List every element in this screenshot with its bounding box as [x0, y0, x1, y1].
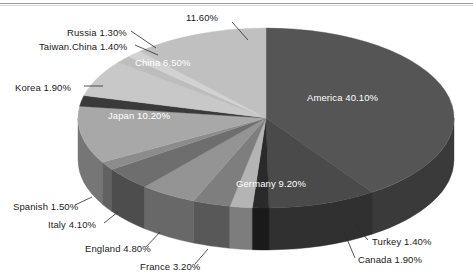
- callout-canada: Canada 1.90%: [358, 254, 422, 265]
- leader-line-1: [131, 31, 156, 48]
- callout-russia: Russia 1.30%: [67, 27, 127, 38]
- callout-turkey: Turkey 1.40%: [372, 236, 431, 247]
- inner-label-america: America 40.10%: [307, 92, 378, 103]
- inner-label-china: China 6.50%: [135, 57, 191, 68]
- pie-chart-figure: 11.60% Russia 1.30% Taiwan.China 1.40% K…: [0, 0, 473, 279]
- callout-france: France 3.20%: [140, 261, 200, 272]
- callout-taiwan-china: Taiwan.China 1.40%: [39, 41, 127, 52]
- callout-spanish: Spanish 1.50%: [13, 201, 78, 212]
- leader-line-5: [104, 212, 118, 223]
- callout-other: 11.60%: [186, 12, 218, 23]
- inner-label-germany: Germany 9.20%: [236, 178, 306, 189]
- callout-italy: Italy 4.10%: [48, 219, 96, 230]
- callout-korea: Korea 1.90%: [15, 82, 71, 93]
- callout-england: England 4.80%: [85, 243, 151, 254]
- inner-label-japan: Japan 10.20%: [108, 110, 170, 121]
